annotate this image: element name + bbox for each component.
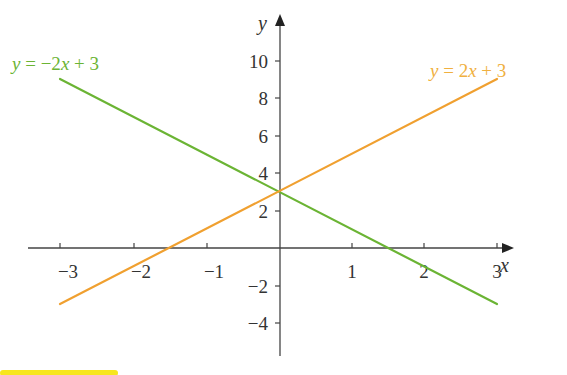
series-label-positive-slope: y = 2x + 3 xyxy=(428,60,506,81)
y-tick-label: 6 xyxy=(259,126,269,147)
y-tick-label: 8 xyxy=(259,88,269,109)
y-tick-label: 10 xyxy=(249,51,268,72)
y-axis-label: y xyxy=(256,12,267,35)
x-tick-label: −1 xyxy=(204,261,224,282)
y-axis-arrow-icon xyxy=(275,14,285,26)
x-axis xyxy=(28,243,514,253)
y-tick-labels: 10 8 6 4 2 −2 −4 xyxy=(248,51,269,334)
x-axis-arrow-icon xyxy=(502,243,514,253)
x-tick-label: −2 xyxy=(131,261,151,282)
x-ticks xyxy=(60,243,497,248)
series-label-negative-slope: y = −2x + 3 xyxy=(10,53,99,74)
x-tick-label: −3 xyxy=(58,261,78,282)
y-tick-label: −2 xyxy=(248,276,268,297)
y-tick-label: −4 xyxy=(248,313,269,334)
x-axis-label: x xyxy=(499,254,509,276)
y-axis xyxy=(275,14,285,356)
x-tick-label: 1 xyxy=(347,261,357,282)
y-tick-label: 2 xyxy=(259,201,269,222)
chart-canvas: −3 −2 −1 1 2 3 10 8 6 4 2 −2 −4 y x y = … xyxy=(0,0,567,375)
highlight-bar xyxy=(0,370,118,375)
